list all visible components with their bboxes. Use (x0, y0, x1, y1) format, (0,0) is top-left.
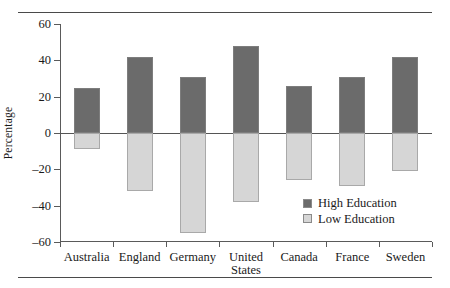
x-tick-end-0 (60, 242, 61, 247)
legend-swatch-low-education-icon (303, 214, 312, 223)
legend-swatch-high-education-icon (303, 199, 312, 208)
legend-item-high-education: High Education (303, 196, 397, 211)
x-tick-2 (166, 242, 167, 247)
bar-low-education (392, 133, 418, 171)
chart-legend: High Education Low Education (303, 196, 397, 227)
y-tick-label-4: –20 (32, 163, 51, 176)
bar-group (60, 24, 113, 242)
legend-label-low-education: Low Education (318, 212, 395, 227)
x-tick-3 (219, 242, 220, 247)
bar-high-education (286, 86, 312, 133)
x-tick-1 (113, 242, 114, 247)
bar-low-education (286, 133, 312, 180)
x-tick-end-1 (432, 242, 433, 247)
bar-high-education (233, 46, 259, 133)
y-tick-label-6: –60 (32, 236, 51, 249)
top-rule (18, 12, 432, 13)
legend-item-low-education: Low Education (303, 212, 397, 227)
y-tick-label-1: 40 (39, 54, 52, 67)
bar-high-education (339, 77, 365, 133)
bar-low-education (74, 133, 100, 149)
bar-high-education (74, 88, 100, 133)
bar-high-education (180, 77, 206, 133)
bar-group (219, 24, 272, 242)
legend-label-high-education: High Education (318, 196, 397, 211)
y-tick-label-5: –40 (32, 199, 51, 212)
y-tick-label-3: 0 (45, 127, 51, 140)
x-tick-5 (326, 242, 327, 247)
bar-low-education (233, 133, 259, 202)
y-tick-label-0: 60 (39, 18, 52, 31)
y-tick-label-2: 20 (39, 90, 52, 103)
y-axis-title: Percentage (2, 107, 14, 159)
bar-low-education (180, 133, 206, 233)
bar-high-education (392, 57, 418, 133)
bar-group (166, 24, 219, 242)
category-group-separator-tick (273, 242, 274, 247)
chart-figure: Percentage 6040200–20–40–60 AustraliaEng… (0, 0, 450, 288)
x-tick-6 (379, 242, 380, 247)
bar-group (113, 24, 166, 242)
bar-low-education (127, 133, 153, 191)
bottom-rule (18, 277, 432, 278)
x-axis-label: Sweden (367, 251, 443, 264)
bar-high-education (127, 57, 153, 133)
bar-low-education (339, 133, 365, 186)
